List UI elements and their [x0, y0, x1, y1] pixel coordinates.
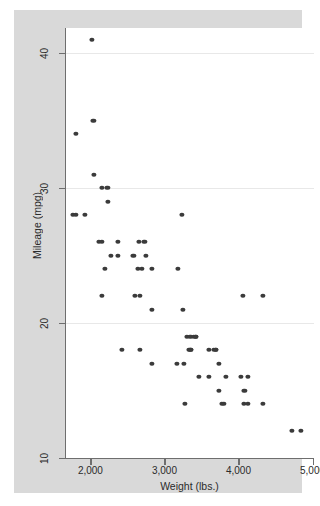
x-axis-title: Weight (lbs.) — [65, 480, 314, 492]
data-point — [217, 361, 222, 365]
data-point — [181, 361, 186, 365]
data-point — [92, 172, 97, 176]
data-point — [106, 199, 111, 203]
data-point — [175, 267, 180, 271]
data-point — [197, 375, 202, 379]
data-point — [189, 348, 194, 352]
gridline-y-20 — [66, 323, 314, 324]
data-point — [180, 213, 185, 217]
data-point — [73, 132, 78, 136]
data-point — [89, 37, 94, 41]
y-tick-label-10: 10 — [40, 448, 57, 468]
data-point — [180, 307, 185, 311]
data-point — [120, 348, 125, 352]
data-point — [260, 402, 265, 406]
data-point — [83, 213, 88, 217]
y-tick-10 — [59, 458, 66, 459]
graph-region: 10203040 2,0003,0004,0005,000 Mileage (m… — [14, 10, 302, 493]
data-point — [73, 213, 78, 217]
x-tick-label-4000: 4,000 — [217, 466, 259, 476]
data-point — [289, 429, 294, 433]
data-point — [206, 375, 211, 379]
data-point — [246, 402, 251, 406]
data-point — [246, 375, 251, 379]
data-point — [115, 253, 120, 257]
data-point — [137, 348, 142, 352]
data-point — [194, 334, 199, 338]
data-point — [149, 267, 154, 271]
y-tick-40 — [59, 53, 66, 54]
x-tick-label-5000: 5,000 — [292, 466, 316, 476]
data-point — [136, 240, 141, 244]
data-point — [100, 240, 105, 244]
data-point — [242, 388, 247, 392]
y-axis-title: Mileage (mpg) — [31, 10, 43, 440]
scatter-plot-figure: 10203040 2,0003,0004,0005,000 Mileage (m… — [0, 0, 316, 506]
data-point — [131, 253, 136, 257]
data-point — [149, 307, 154, 311]
data-point — [139, 267, 144, 271]
x-axis-line — [65, 458, 314, 459]
x-tick-label-3000: 3,000 — [143, 466, 185, 476]
data-point — [143, 253, 148, 257]
data-point — [223, 375, 228, 379]
data-point — [115, 240, 120, 244]
data-point — [91, 118, 96, 122]
data-point — [260, 294, 265, 298]
data-point — [105, 186, 110, 190]
y-axis-line — [65, 28, 66, 459]
plot-area — [66, 28, 314, 458]
data-point — [100, 294, 105, 298]
data-point — [109, 253, 114, 257]
data-point — [149, 361, 154, 365]
gridline-y-40 — [66, 53, 314, 54]
data-point — [183, 402, 188, 406]
data-point — [221, 402, 226, 406]
y-tick-30 — [59, 188, 66, 189]
data-point — [142, 240, 147, 244]
data-point — [174, 361, 179, 365]
data-point — [217, 388, 222, 392]
data-point — [298, 429, 303, 433]
x-tick-label-2000: 2,000 — [69, 466, 111, 476]
data-point — [214, 348, 219, 352]
data-point — [240, 294, 245, 298]
y-tick-20 — [59, 323, 66, 324]
data-point — [238, 375, 243, 379]
data-point — [137, 294, 142, 298]
data-point — [103, 267, 108, 271]
